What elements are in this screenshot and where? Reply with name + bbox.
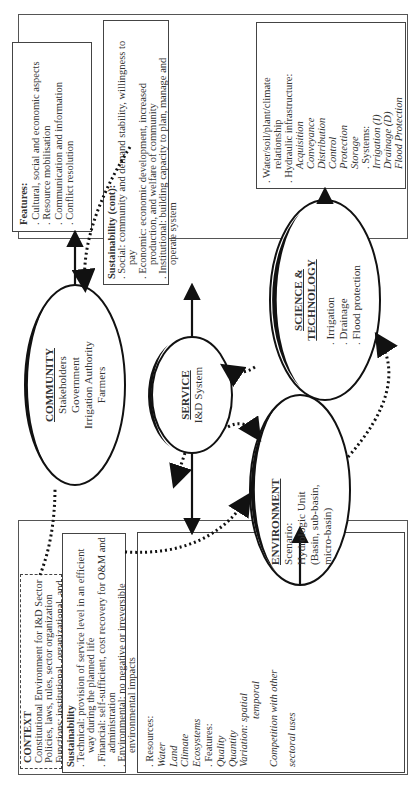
- community-line: Irrigation Authority: [82, 341, 95, 429]
- dotted-sustainability-to-environment: [125, 497, 248, 552]
- science-line: . Drainage: [337, 298, 350, 375]
- science-line: . Flood protection: [350, 265, 363, 375]
- community-title: COMMUNITY: [43, 348, 56, 422]
- science-title-2: TECHNOLOGY: [305, 259, 318, 340]
- dotted-science-to-community: [85, 147, 130, 287]
- environment-line: (Basin, sub-basin,: [308, 485, 321, 565]
- community-line: Government: [69, 357, 82, 413]
- environment-line: Scenario:: [282, 523, 295, 565]
- diagram-canvas: CONTEXT Constitutional Environment for I…: [0, 0, 415, 787]
- community-node: COMMUNITY Stakeholders Government Irriga…: [38, 305, 112, 465]
- science-title: SCIENCE &: [292, 269, 305, 331]
- dotted-context-to-community: [40, 487, 55, 575]
- community-line: Stakeholders: [56, 356, 69, 414]
- environment-line: Hydrologic Unit: [295, 491, 308, 565]
- dotted-service-to-environment: [228, 424, 258, 437]
- science-node: SCIENCE & TECHNOLOGY . Irrigation . Drai…: [282, 225, 372, 375]
- environment-node: ENVIRONMENT Scenario: Hydrologic Unit (B…: [264, 415, 338, 565]
- service-node: SERVICE I&D System: [172, 348, 212, 442]
- dotted-service-to-community: [175, 453, 185, 483]
- environment-line: micro-basin): [321, 508, 334, 565]
- science-line: . Irrigation: [324, 297, 337, 375]
- environment-title: ENVIRONMENT: [269, 479, 282, 565]
- community-line: Farmers: [95, 367, 108, 404]
- service-line: I&D System: [192, 367, 205, 423]
- service-title: SERVICE: [179, 370, 192, 419]
